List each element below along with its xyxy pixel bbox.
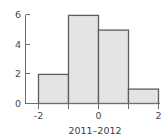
bar-bin-4 <box>129 89 159 103</box>
chart-canvas: 6 4 2 0 -2 0 2 2011–2012 <box>0 0 166 140</box>
bar-bin-3 <box>99 30 129 103</box>
bar-bin-2 <box>69 15 99 103</box>
bar-bin-1 <box>39 74 69 103</box>
y-tick-label-6: 6 <box>15 9 21 20</box>
y-tick-label-2: 2 <box>15 68 21 79</box>
y-tick-label-0: 0 <box>15 98 21 109</box>
x-tick-label-minus2: -2 <box>34 110 43 121</box>
y-tick-label-4: 4 <box>15 39 21 50</box>
x-axis-title: 2011–2012 <box>68 125 121 136</box>
x-tick-label-2: 2 <box>155 110 161 121</box>
histogram-chart: 6 4 2 0 -2 0 2 2011–2012 <box>0 0 166 140</box>
x-tick-label-0: 0 <box>95 110 101 121</box>
